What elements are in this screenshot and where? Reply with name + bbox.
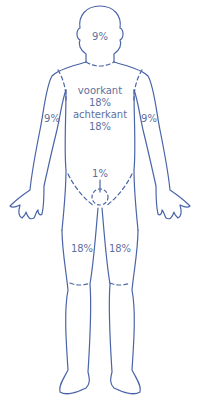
trunk-front-percentage: 18% [85, 97, 115, 109]
right-leg-outline [102, 208, 140, 394]
trunk-back-percentage: 18% [85, 121, 115, 133]
left-leg-percentage: 18% [68, 243, 96, 255]
genital-percentage: 1% [88, 168, 112, 180]
trunk-front-label: voorkant [70, 85, 130, 97]
neck-line [86, 62, 114, 66]
left-knee-line [70, 283, 90, 285]
right-leg-percentage: 18% [106, 243, 134, 255]
left-arm-percentage: 9% [40, 113, 64, 125]
trunk-back-label: achterkant [65, 109, 135, 121]
right-knee-line [110, 283, 130, 285]
left-leg-outline [60, 208, 98, 394]
head-percentage: 9% [88, 31, 112, 43]
body-outline [0, 0, 201, 403]
right-arm-percentage: 9% [137, 113, 161, 125]
